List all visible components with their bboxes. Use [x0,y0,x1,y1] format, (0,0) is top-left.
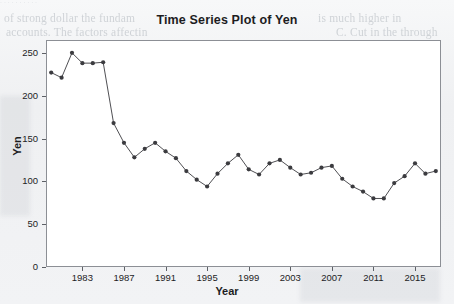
series-line-yen [51,53,436,199]
data-point [340,177,344,181]
data-point [236,153,240,157]
x-axis-label: Year [0,285,454,297]
data-point [111,121,115,125]
data-point [247,167,251,171]
x-tick-mark [166,267,167,271]
y-tick-label: 200 [4,90,38,101]
data-point [184,169,188,173]
chart-figure: · · · · · · · · · · of strong dollar the… [0,0,454,304]
x-tick-label: 1991 [146,272,186,283]
data-point [257,172,261,176]
data-point [392,181,396,185]
x-tick-label: 1999 [229,272,269,283]
series-markers-yen [49,51,438,201]
x-tick-label: 1983 [62,272,102,283]
data-point [278,158,282,162]
data-point [351,184,355,188]
data-point [101,60,105,64]
x-tick-label: 1995 [187,272,227,283]
x-tick-mark [249,267,250,271]
data-point [195,178,199,182]
y-tick-label: 100 [4,175,38,186]
data-point [434,169,438,173]
data-point [413,161,417,165]
series-yen [46,40,441,267]
data-point [153,141,157,145]
data-point [80,61,84,65]
x-tick-mark [332,267,333,271]
data-point [91,61,95,65]
background-bleed-line-2: accounts. The factors affectin [6,26,148,38]
x-tick-label: 2011 [353,272,393,283]
data-point [122,141,126,145]
data-point [403,174,407,178]
data-point [174,156,178,160]
y-tick-label: 50 [4,218,38,229]
data-point [49,70,53,74]
x-tick-mark [373,267,374,271]
data-point [267,161,271,165]
x-tick-label: 2007 [312,272,352,283]
y-tick-label: 250 [4,47,38,58]
x-tick-mark [290,267,291,271]
y-tick-label: 0 [4,261,38,272]
data-point [70,51,74,55]
data-point [330,164,334,168]
data-point [309,171,313,175]
data-point [59,76,63,80]
y-tick-mark [42,267,46,268]
data-point [163,149,167,153]
x-tick-mark [124,267,125,271]
x-tick-label: 1987 [104,272,144,283]
background-bleed-top-edge: · · · · · · · · · · [0,0,37,6]
x-tick-mark [207,267,208,271]
chart-title: Time Series Plot of Yen [0,13,454,27]
data-point [205,184,209,188]
x-tick-mark [82,267,83,271]
data-point [143,147,147,151]
data-point [215,172,219,176]
background-bleed-line-4: C. Cut in the through [336,26,438,38]
y-axis-label: Yen [11,126,23,166]
x-tick-label: 2015 [395,272,435,283]
data-point [299,172,303,176]
data-point [361,190,365,194]
data-point [371,196,375,200]
data-point [132,155,136,159]
data-point [288,166,292,170]
data-point [382,196,386,200]
x-tick-mark [415,267,416,271]
x-tick-label: 2003 [270,272,310,283]
data-point [226,161,230,165]
data-point [319,166,323,170]
data-point [423,172,427,176]
